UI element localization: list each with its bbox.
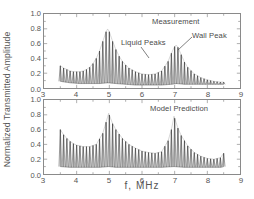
panel-model-prediction bbox=[43, 99, 241, 175]
y-tick-label: 0.2 bbox=[11, 156, 41, 163]
x-axis-label: f, MHz bbox=[43, 180, 241, 191]
annotation-model-prediction: Model Prediction bbox=[150, 104, 208, 113]
y-tick-label: 0.8 bbox=[11, 111, 41, 118]
y-tick-label: 0.0 bbox=[11, 172, 41, 179]
y-tick-label: 0.4 bbox=[11, 141, 41, 148]
y-tick-label: 0.6 bbox=[11, 126, 41, 133]
y-axis-ticks-bottom: 1.00.80.60.40.20.0 bbox=[11, 99, 41, 175]
plot-area-model-prediction bbox=[44, 100, 240, 174]
y-tick-label: 1.0 bbox=[11, 96, 41, 103]
figure: Normalized Transmitted Amplitude 1.00.80… bbox=[0, 0, 254, 199]
